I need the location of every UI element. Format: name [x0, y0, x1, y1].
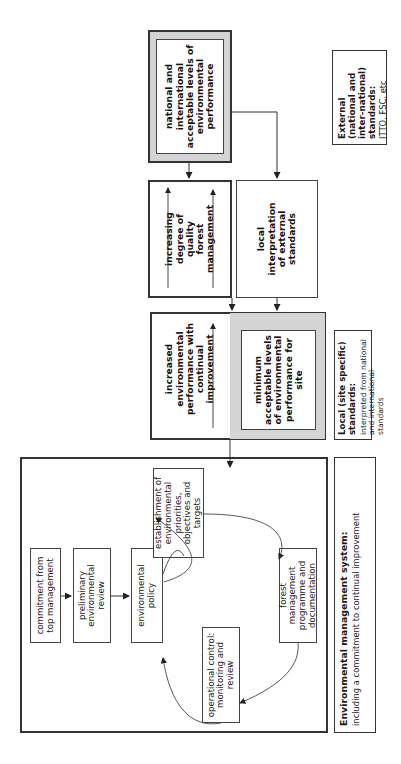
step-commitment: commitment from top management: [30, 548, 61, 643]
step-forest-programme: forest management programme and document…: [279, 548, 317, 643]
local-interpretation-text: local interpretation of external standar…: [256, 181, 297, 297]
step-preliminary-text: preliminary environmental review: [78, 549, 107, 642]
minimum-levels-box: minimum acceptable levels of environment…: [241, 330, 316, 430]
local-label-subtitle: interpreted from national and internatio…: [360, 335, 386, 435]
step-establishment: establishment of environmental prioritie…: [153, 468, 204, 558]
ems-label-title: Environmental management system:: [339, 464, 350, 726]
diagram-canvas: commitment from top management prelimina…: [0, 0, 401, 764]
ems-label-subtitle: including a commitment to continual impr…: [352, 464, 362, 726]
ems-label-box: Environmental management system: includi…: [334, 457, 376, 733]
national-standards-box: national and international acceptable le…: [156, 39, 224, 154]
minimum-levels-text: minimum acceptable levels of environment…: [253, 331, 304, 429]
arrow-national-to-interpretation: [232, 112, 277, 178]
increased-performance-text: increased environmental performance with…: [164, 314, 215, 424]
external-label-title: External (national and inter-national) s…: [337, 56, 377, 139]
step-preliminary-review: preliminary environmental review: [73, 548, 111, 643]
local-interpretation-box: local interpretation of external standar…: [236, 180, 318, 298]
increasing-quality-text: increasing degree of quality forest mana…: [164, 179, 215, 299]
step-policy-text: environmental policy: [137, 549, 156, 642]
increased-performance-text-box: increased environmental performance with…: [152, 314, 228, 424]
increasing-quality-box: increasing degree of quality forest mana…: [148, 180, 232, 298]
local-label-title: Local (site specific) standards:: [338, 335, 358, 435]
local-label-box: Local (site specific) standards: interpr…: [334, 330, 372, 440]
step-commitment-text: commitment from top management: [36, 549, 55, 642]
step-programme-text: forest management programme and document…: [279, 549, 318, 642]
external-label-subtitle: ITTO, FSC, etc: [379, 56, 389, 139]
step-operational-control: operational control: monitoring and revi…: [202, 627, 240, 723]
national-standards-text: national and international acceptable le…: [164, 40, 215, 153]
step-establishment-text: establishment of environmental prioritie…: [154, 469, 202, 557]
external-label-box: External (national and inter-national) s…: [332, 50, 387, 145]
step-environmental-policy: environmental policy: [131, 548, 163, 643]
step-operational-text: operational control: monitoring and revi…: [207, 628, 236, 722]
